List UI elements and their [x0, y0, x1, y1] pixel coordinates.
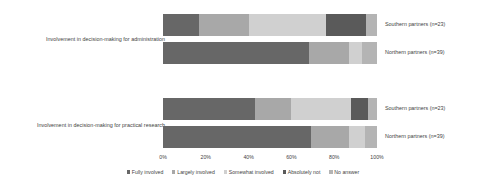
legend-label: Somewhat involved: [229, 169, 274, 175]
legend-label: Largely involved: [177, 169, 215, 175]
bar-row: [163, 126, 377, 148]
bar-segment: [255, 98, 291, 120]
stacked-bar-chart: Involvement in decision-making for admin…: [0, 0, 486, 184]
bar-segment: [163, 42, 309, 64]
legend-label: No answer: [334, 169, 359, 175]
x-tick-label: 40%: [243, 154, 253, 160]
legend-swatch-icon: [127, 170, 130, 173]
bar-segment: [291, 98, 351, 120]
x-tick-label: 20%: [201, 154, 211, 160]
legend-item[interactable]: Somewhat involved: [224, 169, 274, 175]
legend-swatch-icon: [224, 170, 227, 173]
bar-segment: [349, 126, 365, 148]
series-label-northern-admin: Northern partners (n=39): [385, 49, 444, 55]
legend-item[interactable]: Absolutely not: [283, 169, 321, 175]
bar-segment: [326, 14, 367, 36]
plot-area: [163, 10, 377, 152]
x-tick-label: 100%: [370, 154, 383, 160]
x-axis: 0%20%40%60%80%100%: [163, 154, 377, 164]
legend-swatch-icon: [329, 170, 332, 173]
series-label-southern-research: Southern partners (n=23): [385, 105, 445, 111]
bar-segment: [163, 14, 199, 36]
legend-swatch-icon: [283, 170, 286, 173]
x-tick-label: 60%: [286, 154, 296, 160]
bar-segment: [349, 42, 362, 64]
legend-item[interactable]: Largely involved: [172, 169, 214, 175]
bar-row: [163, 42, 377, 64]
group-label-practical-research: Involvement in decision-making for pract…: [37, 122, 165, 128]
x-tick-label: 80%: [329, 154, 339, 160]
bar-segment: [366, 14, 377, 36]
bar-segment: [368, 98, 377, 120]
bar-segment: [163, 126, 311, 148]
bar-segment: [163, 98, 255, 120]
bar-row: [163, 14, 377, 36]
chart-legend: Fully involvedLargely involvedSomewhat i…: [0, 169, 486, 175]
legend-item[interactable]: Fully involved: [127, 169, 163, 175]
series-label-southern-admin: Southern partners (n=23): [385, 21, 445, 27]
bar-segment: [351, 98, 368, 120]
legend-item[interactable]: No answer: [329, 169, 359, 175]
bar-segment: [311, 126, 350, 148]
legend-label: Fully involved: [132, 169, 163, 175]
group-label-administration: Involvement in decision-making for admin…: [46, 36, 165, 42]
bar-segment: [365, 126, 377, 148]
legend-label: Absolutely not: [288, 169, 321, 175]
bar-segment: [362, 42, 377, 64]
bar-row: [163, 98, 377, 120]
legend-swatch-icon: [172, 170, 175, 173]
bar-segment: [249, 14, 326, 36]
bar-segment: [199, 14, 248, 36]
bar-segment: [309, 42, 350, 64]
series-label-northern-research: Northern partners (n=39): [385, 133, 444, 139]
x-tick-label: 0%: [159, 154, 167, 160]
